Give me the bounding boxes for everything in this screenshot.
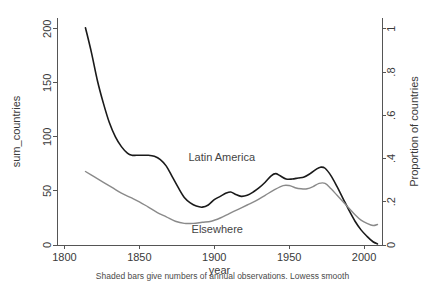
series-group (85, 28, 377, 244)
y2-axis-tick-label: 0 (385, 242, 397, 248)
y2-axis-tick-label: .2 (385, 197, 397, 206)
line-chart-plot: 0501001502000.2.4.6.81180018501900195020… (0, 0, 429, 294)
y2-axis-tick-label: 1 (385, 26, 397, 32)
chart-figure: 0501001502000.2.4.6.81180018501900195020… (0, 0, 429, 294)
y2-axis-title: Proportion of countries (408, 76, 420, 187)
y-axis-tick-label: 100 (41, 128, 53, 146)
y-axis-tick-label: 0 (41, 242, 53, 248)
y2-axis-tick-label: .8 (385, 67, 397, 76)
series-annotation-elsewhere: Elsewhere (192, 223, 243, 235)
series-annotation-latin-america: Latin America (188, 151, 256, 163)
y-axis-tick-label: 200 (41, 20, 53, 38)
y-axis-tick-label: 50 (41, 185, 53, 197)
x-axis-tick-label: 1900 (202, 251, 226, 263)
x-axis-tick-label: 1800 (52, 251, 76, 263)
y-axis-title: sum_countries (10, 95, 22, 167)
series-line-latin-america (85, 28, 377, 244)
y2-axis-tick-label: .6 (385, 111, 397, 120)
x-axis-tick-label: 2000 (352, 251, 376, 263)
x-axis-tick-label: 1850 (127, 251, 151, 263)
y-axis-tick-label: 150 (41, 74, 53, 92)
annotations-group: Latin AmericaElsewhere (188, 151, 256, 235)
chart-caption: Shaded bars give numbers of annual obser… (96, 271, 350, 281)
x-axis-tick-label: 1950 (277, 251, 301, 263)
y2-axis-tick-label: .4 (385, 154, 397, 163)
